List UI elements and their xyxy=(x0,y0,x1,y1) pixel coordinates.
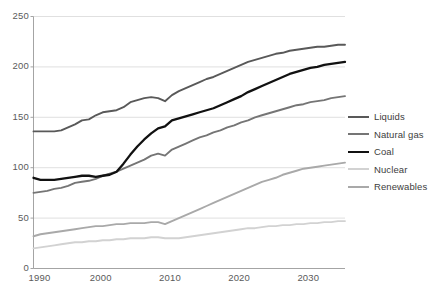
x-tick-label-2010: 2010 xyxy=(159,272,181,283)
y-tick-label-50: 50 xyxy=(3,212,29,223)
legend-item-label: Natural gas xyxy=(374,129,424,140)
legend-item-label: Liquids xyxy=(374,111,405,122)
y-tick-label-150: 150 xyxy=(3,111,29,122)
chart-figure: 250200150100500 19902000201020202030 Liq… xyxy=(0,0,430,294)
legend-item-label: Nuclear xyxy=(374,164,407,175)
legend-swatch-icon xyxy=(348,186,369,188)
x-tick-label-2020: 2020 xyxy=(228,272,250,283)
legend-item-label: Coal xyxy=(374,146,394,157)
series-line-renewables xyxy=(34,163,346,237)
y-tick-label-100: 100 xyxy=(3,161,29,172)
legend-item-label: Renewables xyxy=(374,181,427,192)
legend-item-natural-gas[interactable]: Natural gas xyxy=(348,126,430,144)
series-line-natural-gas xyxy=(34,96,346,193)
legend-item-renewables[interactable]: Renewables xyxy=(348,178,430,196)
legend-swatch-icon xyxy=(348,168,369,170)
legend-item-liquids[interactable]: Liquids xyxy=(348,108,430,126)
legend-item-coal[interactable]: Coal xyxy=(348,143,430,161)
legend-swatch-icon xyxy=(348,151,369,153)
x-tick-label-2030: 2030 xyxy=(297,272,319,283)
legend-item-nuclear[interactable]: Nuclear xyxy=(348,161,430,179)
series-line-liquids xyxy=(34,45,346,132)
series-line-nuclear xyxy=(34,221,346,248)
legend-swatch-icon xyxy=(348,133,369,135)
y-tick-label-250: 250 xyxy=(3,10,29,21)
x-tick-label-1990: 1990 xyxy=(29,272,51,283)
chart-legend: LiquidsNatural gasCoalNuclearRenewables xyxy=(348,108,430,196)
y-tick-label-200: 200 xyxy=(3,60,29,71)
y-tick-label-0: 0 xyxy=(3,262,29,273)
x-tick-label-2000: 2000 xyxy=(90,272,112,283)
legend-swatch-icon xyxy=(348,116,369,118)
